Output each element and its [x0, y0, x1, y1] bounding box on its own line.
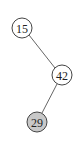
- node-label: 15: [16, 22, 28, 36]
- binary-tree-diagram: 15 42 29: [0, 0, 79, 143]
- tree-node-15: 15: [12, 18, 32, 38]
- edge-15-42: [29, 35, 55, 68]
- node-label: 29: [31, 116, 43, 130]
- edge-42-29: [42, 84, 57, 113]
- tree-node-42: 42: [52, 65, 72, 85]
- node-label: 42: [56, 69, 68, 83]
- tree-node-29-highlighted: 29: [27, 112, 47, 132]
